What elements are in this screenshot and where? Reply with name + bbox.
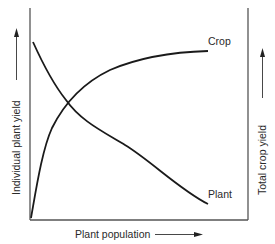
y-left-arrow-icon bbox=[14, 28, 19, 37]
plant-label: Plant bbox=[208, 188, 232, 200]
y-right-axis-label: Total crop yield bbox=[256, 125, 268, 195]
yield-vs-population-chart: Crop Plant Plant population Individual p… bbox=[0, 0, 275, 244]
y-right-arrow-icon bbox=[260, 48, 265, 57]
y-left-axis-label: Individual plant yield bbox=[10, 100, 22, 195]
x-axis-label: Plant population bbox=[75, 228, 150, 240]
crop-label: Crop bbox=[208, 35, 231, 47]
x-axis-arrow-icon bbox=[194, 232, 203, 237]
crop-curve bbox=[31, 51, 208, 218]
